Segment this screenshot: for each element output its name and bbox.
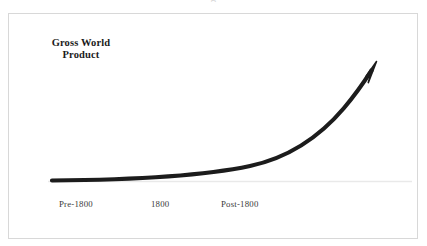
y-axis-label: Gross World Product: [40, 37, 122, 61]
x-axis-tick-label-pre-1800: Pre-1800: [59, 199, 93, 209]
y-axis-label-line2: Product: [40, 49, 122, 61]
y-axis-label-line1: Gross World: [52, 37, 111, 48]
growth-curve: [52, 71, 372, 181]
x-axis-tick-label-post-1800: Post-1800: [221, 199, 258, 209]
x-axis-tick-label-1800: 1800: [151, 199, 169, 209]
chart-page: g Gross World Product Pre-1800 1800 Post…: [0, 0, 427, 246]
